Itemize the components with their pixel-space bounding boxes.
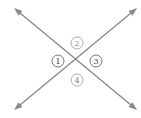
angle-2-text: 2: [74, 39, 79, 48]
angle-3-text: 3: [93, 57, 98, 66]
angle-1-text: 1: [55, 57, 60, 66]
angle-label-2: 2: [71, 37, 83, 49]
angle-label-3: 3: [90, 55, 102, 67]
angle-label-1: 1: [52, 55, 64, 67]
intersecting-lines-diagram: 1 2 3 4: [0, 0, 141, 118]
angle-label-4: 4: [71, 74, 83, 86]
angle-4-text: 4: [74, 76, 79, 85]
